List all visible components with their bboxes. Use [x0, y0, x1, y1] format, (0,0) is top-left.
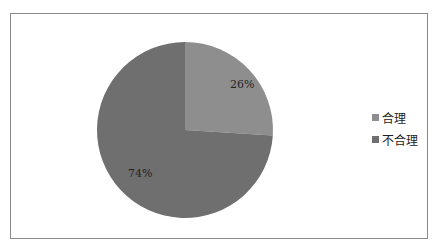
- slice-label-unreasonable: 74%: [128, 167, 152, 180]
- legend: 合理 不合理: [372, 106, 418, 150]
- legend-item-unreasonable: 不合理: [372, 128, 418, 150]
- legend-item-reasonable: 合理: [372, 106, 418, 128]
- slice-label-reasonable: 26%: [230, 78, 254, 91]
- pie-slice-0: [185, 42, 273, 136]
- legend-swatch-icon: [372, 136, 379, 143]
- legend-swatch-icon: [372, 114, 379, 121]
